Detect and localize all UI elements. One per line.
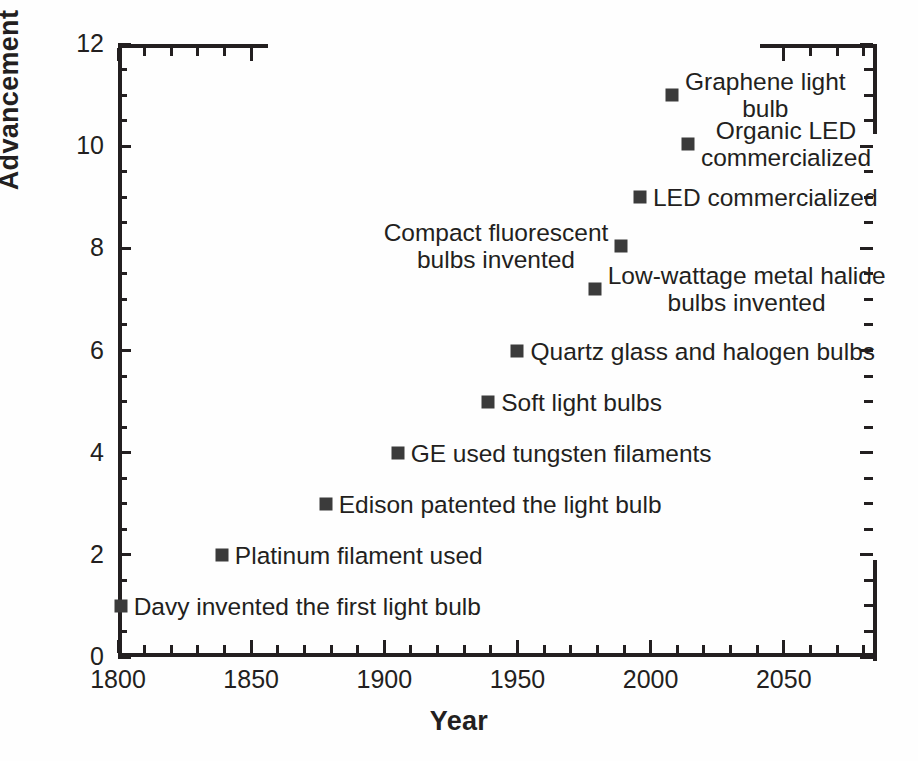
y-axis-major-tick [118, 656, 131, 659]
data-point-label: Edison patented the light bulb [339, 490, 662, 517]
x-axis-tick-label: 1850 [191, 667, 311, 692]
data-point-label: Low-wattage metal halidebulbs invented [608, 262, 886, 316]
data-point-label: Soft light bulbs [501, 388, 662, 415]
y-axis-minor-tick-right [864, 323, 873, 326]
data-point-label-line: bulbs invented [384, 246, 609, 273]
y-axis-title: Advancement [0, 0, 25, 250]
frame-top-left-segment [118, 44, 268, 48]
y-axis-minor-tick [118, 94, 127, 97]
y-axis-minor-tick [118, 528, 127, 531]
y-axis-minor-tick [118, 323, 127, 326]
data-point-label: Davy invented the first light bulb [134, 592, 481, 619]
y-axis-major-tick-right [860, 247, 873, 250]
y-axis-minor-tick [118, 477, 127, 480]
x-axis-minor-tick [303, 645, 306, 653]
data-point-label-line: Compact fluorescent [384, 219, 609, 246]
y-axis-minor-tick [118, 400, 127, 403]
x-axis-major-tick-top [250, 48, 253, 61]
x-axis-major-tick [383, 640, 386, 653]
y-axis-tick-label: 4 [44, 440, 104, 465]
x-axis-minor-tick-top [862, 48, 865, 56]
x-axis-minor-tick [463, 645, 466, 653]
y-axis-major-tick [118, 349, 131, 352]
y-axis-minor-tick [118, 630, 127, 633]
x-axis-major-tick [782, 640, 785, 653]
x-axis-minor-tick [330, 645, 333, 653]
x-axis-minor-tick [409, 645, 412, 653]
y-axis-minor-tick [118, 119, 127, 122]
x-axis-major-tick [250, 640, 253, 653]
data-point-marker[interactable] [482, 395, 495, 408]
y-axis-tick-label: 12 [44, 31, 104, 56]
x-axis-minor-tick-top [223, 48, 226, 56]
x-axis-tick-label: 1800 [58, 667, 178, 692]
data-point-marker[interactable] [588, 283, 601, 296]
y-axis-major-tick [118, 451, 131, 454]
x-axis-minor-tick [809, 645, 812, 653]
y-axis-minor-tick-right [864, 94, 873, 97]
y-axis-minor-tick-right [864, 630, 873, 633]
y-axis-minor-tick-right [864, 477, 873, 480]
y-axis-minor-tick-right [864, 221, 873, 224]
y-axis-minor-tick-right [864, 604, 873, 607]
x-axis-minor-tick [836, 645, 839, 653]
data-point-label-line: Low-wattage metal halide [608, 262, 886, 289]
data-point-label-line: commercialized [701, 144, 871, 171]
data-point-label: Platinum filament used [235, 541, 483, 568]
data-point-marker[interactable] [681, 137, 694, 150]
y-axis-minor-tick [118, 221, 127, 224]
y-axis-minor-tick [118, 375, 127, 378]
y-axis-major-tick-right [860, 43, 873, 46]
x-axis-major-tick-top [782, 48, 785, 61]
x-axis-minor-tick [756, 645, 759, 653]
y-axis-minor-tick [118, 579, 127, 582]
y-axis-major-tick [118, 247, 131, 250]
y-axis-major-tick [118, 43, 131, 46]
y-axis-major-tick-right [860, 553, 873, 556]
x-axis-minor-tick [196, 645, 199, 653]
data-point-label-line: bulbs invented [608, 289, 886, 316]
x-axis-minor-tick [543, 645, 546, 653]
scatter-chart-figure: 024681012180018501900195020002050 Davy i… [0, 0, 918, 761]
x-axis-tick-label: 2050 [724, 667, 844, 692]
data-point-label: Organic LEDcommercialized [701, 117, 871, 171]
x-axis-major-tick-top [117, 48, 120, 61]
frame-right-bottom-segment [873, 560, 877, 661]
y-axis-minor-tick-right [864, 528, 873, 531]
data-point-marker[interactable] [615, 239, 628, 252]
y-axis-tick-label: 2 [44, 542, 104, 567]
y-axis-minor-tick-right [864, 502, 873, 505]
x-axis-minor-tick-top [143, 48, 146, 56]
data-point-marker[interactable] [633, 191, 646, 204]
data-point-marker[interactable] [511, 344, 524, 357]
x-axis-minor-tick [676, 645, 679, 653]
data-point-marker[interactable] [215, 548, 228, 561]
y-axis-minor-tick [118, 502, 127, 505]
y-axis-major-tick [118, 145, 131, 148]
y-axis-minor-tick [118, 298, 127, 301]
y-axis-minor-tick [118, 170, 127, 173]
data-point-label: Quartz glass and halogen bulbs [530, 337, 875, 364]
y-axis-tick-label: 8 [44, 235, 104, 260]
data-point-marker[interactable] [391, 446, 404, 459]
x-axis-minor-tick [223, 645, 226, 653]
data-point-marker[interactable] [665, 89, 678, 102]
y-axis-minor-tick [118, 68, 127, 71]
data-point-label: GE used tungsten filaments [411, 439, 712, 466]
y-axis-tick-label: 6 [44, 338, 104, 363]
y-axis-major-tick [118, 553, 131, 556]
x-axis-minor-tick-top [170, 48, 173, 56]
x-axis-minor-tick [356, 645, 359, 653]
x-axis-major-tick [117, 640, 120, 653]
x-axis-title: Year [0, 706, 918, 737]
y-axis-minor-tick-right [864, 426, 873, 429]
x-axis-minor-tick [569, 645, 572, 653]
y-axis-minor-tick-right [864, 375, 873, 378]
x-axis-minor-tick-top [196, 48, 199, 56]
y-axis-tick-label: 10 [44, 133, 104, 158]
frame-right-top-segment [873, 44, 877, 134]
y-axis-minor-tick [118, 196, 127, 199]
data-point-marker[interactable] [114, 599, 127, 612]
data-point-marker[interactable] [319, 497, 332, 510]
x-axis-tick-label: 2000 [591, 667, 711, 692]
